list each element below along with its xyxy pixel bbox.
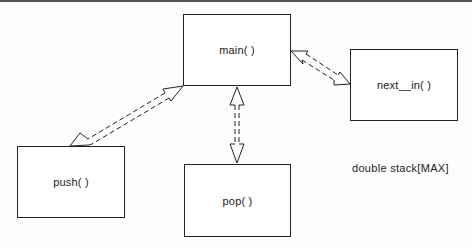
module-pop-label: pop( ) bbox=[223, 195, 253, 207]
module-main-label: main( ) bbox=[219, 44, 255, 56]
module-push: push( ) bbox=[17, 146, 125, 218]
module-main: main( ) bbox=[183, 14, 291, 86]
structure-diagram: main( ) next__in( ) push( ) pop( ) doubl… bbox=[0, 0, 472, 248]
module-pop: pop( ) bbox=[184, 164, 291, 237]
arrow-main-nextin bbox=[291, 51, 350, 85]
module-push-label: push( ) bbox=[53, 176, 89, 188]
module-next-in: next__in( ) bbox=[350, 49, 458, 121]
arrow-main-pop bbox=[230, 87, 244, 163]
global-data-annotation: double stack[MAX] bbox=[352, 162, 449, 174]
module-next-in-label: next__in( ) bbox=[377, 79, 431, 91]
arrow-main-push bbox=[70, 86, 183, 146]
